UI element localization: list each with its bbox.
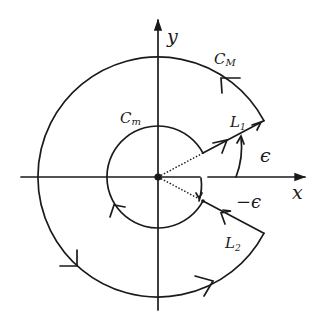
label-cM: CM: [214, 50, 236, 68]
dotted-ray-lower: [158, 177, 203, 201]
label-cm: Cm: [120, 109, 141, 127]
arrow-L2: [221, 210, 231, 224]
label-L2: L2: [224, 234, 241, 253]
arrow-cM-top: [221, 78, 240, 93]
junction-point-L2: [201, 199, 205, 203]
label-epsilon: ϵ: [260, 144, 271, 166]
dotted-ray-upper: [158, 153, 203, 177]
contour-diagram: y x CM Cm L1 L2 ϵ −ϵ: [0, 0, 324, 321]
y-axis-label: y: [166, 25, 178, 47]
label-minus-epsilon: −ϵ: [236, 191, 261, 212]
x-axis-label: x: [292, 181, 303, 203]
arrow-cM-bottom: [195, 276, 213, 296]
label-L1: L1: [229, 113, 246, 132]
